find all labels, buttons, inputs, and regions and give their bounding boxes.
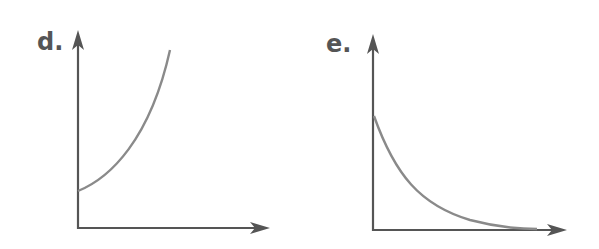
panel-e-graph xyxy=(367,34,567,236)
graphs-canvas xyxy=(0,0,599,249)
panel-d-growth-curve xyxy=(78,50,170,191)
panel-d-graph xyxy=(72,30,270,234)
panel-e-decay-curve xyxy=(374,116,537,229)
